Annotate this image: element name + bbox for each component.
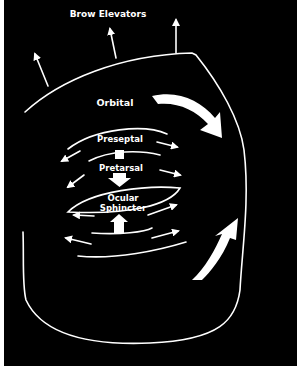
- orbital-label: Orbital: [96, 97, 133, 108]
- brow-elevators-label: Brow Elevators: [70, 9, 147, 19]
- preseptal-label: Preseptal: [97, 134, 143, 144]
- pretarsal-arc: [89, 152, 160, 161]
- sphincter-label: Sphincter: [100, 203, 147, 213]
- arrow-right-icon: [160, 170, 180, 175]
- arrow-right-icon: [157, 142, 177, 147]
- arrow-up-icon: [110, 29, 116, 58]
- pretarsal-label: Pretarsal: [99, 163, 143, 173]
- ocular-label: Ocular: [107, 193, 139, 203]
- arrow-left-icon: [66, 238, 91, 244]
- muscle-diagram: Brow Elevators Orbital Preseptal Pretars…: [0, 0, 301, 374]
- arrow-up-icon: [110, 214, 128, 234]
- arrow-right-icon: [148, 205, 176, 215]
- curved-arrow-icon: [192, 218, 238, 280]
- arrow-left-icon: [68, 175, 84, 187]
- arrow-down-icon: [108, 173, 131, 187]
- arrow-left-icon: [74, 215, 94, 216]
- arrow-left-icon: [62, 151, 80, 161]
- arrow-down-shaft: [115, 150, 124, 159]
- lower-preseptal-arc: [78, 242, 186, 257]
- arrow-up-icon: [35, 54, 48, 86]
- brow-elevator-arrows: [35, 20, 176, 86]
- arrow-right-icon: [152, 231, 178, 238]
